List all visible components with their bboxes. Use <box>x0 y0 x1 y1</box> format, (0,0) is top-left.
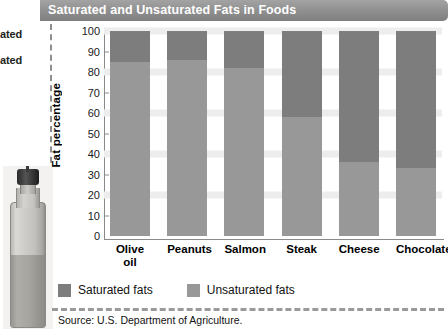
x-tick-label: Peanuts <box>167 243 207 269</box>
legend-label: Unsaturated fats <box>207 283 295 297</box>
legend-item: Unsaturated fats <box>187 283 295 297</box>
bottle-spout <box>26 166 29 172</box>
bar-segment-saturated <box>167 31 207 60</box>
bar-segment-saturated <box>339 31 379 162</box>
legend-swatch <box>187 284 200 297</box>
chart-card: Saturated and Unsaturated Fats in Foods … <box>36 0 448 334</box>
bar-column <box>167 31 207 236</box>
page-title: Saturated and Unsaturated Fats in Foods <box>48 3 296 17</box>
chart-title-bar: Saturated and Unsaturated Fats in Foods <box>36 0 448 21</box>
footer-divider <box>52 308 444 311</box>
figure-page: ated ated Saturated and Unsaturated Fats… <box>0 0 448 334</box>
x-tick-label: Chocolate <box>396 243 436 269</box>
clipped-caption-line-2: ated <box>0 54 22 66</box>
y-tick-label: 90 <box>68 46 100 58</box>
legend: Saturated fatsUnsaturated fats <box>58 283 295 297</box>
y-tick-mark <box>104 92 109 93</box>
x-tick-label: Cheese <box>339 243 379 269</box>
y-tick-label: 80 <box>68 66 100 78</box>
y-axis-tick-labels: 1009080706050403020100 <box>62 31 100 236</box>
legend-swatch <box>58 284 71 297</box>
legend-label: Saturated fats <box>78 283 153 297</box>
y-tick-mark <box>104 174 109 175</box>
bar-segment-unsaturated <box>110 62 150 236</box>
plot-area <box>104 31 442 236</box>
bar-segment-unsaturated <box>224 68 264 236</box>
y-tick-label: 30 <box>68 169 100 181</box>
bar-segment-saturated <box>396 31 436 168</box>
bar-segment-saturated <box>224 31 264 68</box>
y-tick-label: 40 <box>68 148 100 160</box>
y-tick-mark <box>104 133 109 134</box>
x-tick-label: Steak <box>282 243 322 269</box>
plot-wrapper: Fat percentage 1009080706050403020100 Ol… <box>36 21 448 334</box>
bar-segment-unsaturated <box>396 168 436 236</box>
clipped-caption-line-1: ated <box>0 28 22 40</box>
x-tick-label: Salmon <box>224 243 264 269</box>
bar-segment-saturated <box>282 31 322 117</box>
x-axis-tick-labels: Olive oilPeanutsSalmonSteakCheeseChocola… <box>104 243 442 269</box>
bar-segment-unsaturated <box>167 60 207 236</box>
y-tick-label: 60 <box>68 107 100 119</box>
bar-segment-saturated <box>110 31 150 62</box>
legend-item: Saturated fats <box>58 283 153 297</box>
y-tick-mark <box>104 215 109 216</box>
bar-column <box>396 31 436 236</box>
y-tick-label: 20 <box>68 189 100 201</box>
bar-column <box>110 31 150 236</box>
y-tick-label: 100 <box>68 25 100 37</box>
bar-column <box>224 31 264 236</box>
x-tick-label: Olive oil <box>110 243 150 269</box>
bar-group <box>104 31 442 236</box>
x-axis-line <box>104 239 444 240</box>
y-tick-mark <box>104 51 109 52</box>
y-tick-label: 70 <box>68 87 100 99</box>
bar-segment-unsaturated <box>282 117 322 236</box>
y-tick-label: 50 <box>68 128 100 140</box>
y-tick-label: 0 <box>68 230 100 242</box>
bar-column <box>339 31 379 236</box>
bar-segment-unsaturated <box>339 162 379 236</box>
bar-column <box>282 31 322 236</box>
y-tick-label: 10 <box>68 210 100 222</box>
source-note: Source: U.S. Department of Agriculture. <box>58 314 242 326</box>
